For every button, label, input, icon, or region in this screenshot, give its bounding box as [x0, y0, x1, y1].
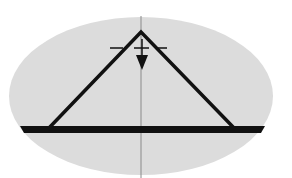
diagram-canvas	[0, 0, 292, 178]
truss-diagram	[0, 0, 292, 178]
